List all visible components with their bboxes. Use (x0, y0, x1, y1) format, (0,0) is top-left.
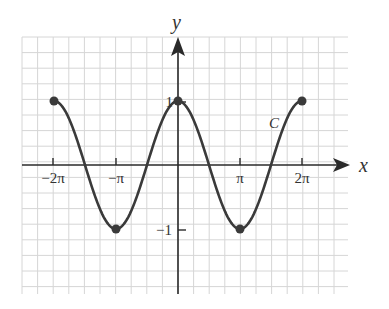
x-tick-label-pi: π (236, 170, 244, 186)
marked-point (298, 97, 307, 106)
x-tick-label-neg-pi: −π (108, 170, 124, 186)
x-tick-label-neg-2pi: −2π (41, 170, 65, 186)
y-tick-label-neg-1: −1 (156, 222, 172, 238)
cosine-graph: y x C −2π −π π 2π 1 −1 (0, 0, 389, 309)
marked-point (236, 225, 245, 234)
x-tick-label-2pi: 2π (294, 170, 310, 186)
marked-point (112, 225, 121, 234)
curve-label: C (269, 115, 280, 131)
x-axis-label: x (358, 154, 368, 176)
y-axis-label: y (170, 11, 181, 34)
y-tick-label-1: 1 (166, 94, 174, 110)
marked-point (50, 97, 59, 106)
marked-point (174, 97, 183, 106)
